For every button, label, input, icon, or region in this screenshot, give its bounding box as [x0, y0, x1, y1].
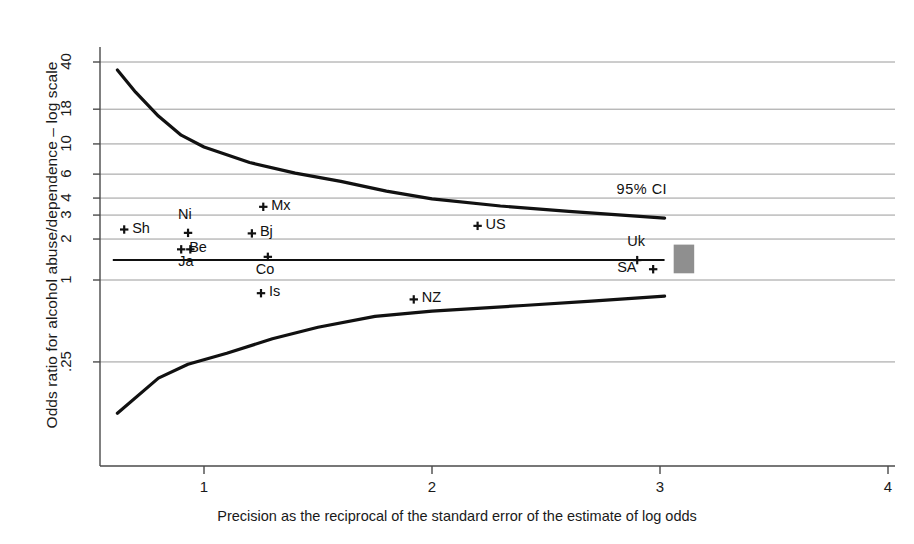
- data-point-is: [257, 289, 265, 297]
- data-point-us: [473, 222, 481, 230]
- x-axis-title: Precision as the reciprocal of the stand…: [0, 508, 914, 524]
- point-label-us: US: [486, 216, 506, 232]
- data-point-ni: [184, 229, 192, 237]
- point-label-co: Co: [256, 261, 275, 277]
- y-tick-label: .25: [57, 338, 74, 384]
- data-point-sa: [649, 265, 657, 273]
- annotation-ci-label: 95% CI: [617, 181, 668, 197]
- gridlines-group: [100, 62, 895, 362]
- x-tick-label: 1: [184, 478, 224, 495]
- x-tick-label: 3: [640, 478, 680, 495]
- y-tick-label: 1: [57, 257, 74, 303]
- data-point-sh: [120, 225, 128, 233]
- point-label-nz: NZ: [422, 289, 441, 305]
- data-point-nz: [410, 295, 418, 303]
- point-label-sh: Sh: [132, 220, 150, 236]
- funnel-plot-figure: Odds ratio for alcohol abuse/dependence …: [0, 0, 914, 544]
- chart-canvas: [0, 0, 914, 544]
- data-point-be: [177, 245, 185, 253]
- shaded-box-group: [674, 245, 695, 274]
- ci-lower-curve: [117, 296, 664, 413]
- y-tick-label: 18: [57, 86, 74, 132]
- point-label-uk: Uk: [627, 233, 645, 249]
- y-tick-label: 40: [57, 39, 74, 85]
- pooled-estimate-box: [674, 245, 695, 274]
- x-tick-label: 4: [868, 478, 908, 495]
- data-point-mx: [259, 203, 267, 211]
- x-tick-label: 2: [412, 478, 452, 495]
- point-label-is: Is: [269, 283, 280, 299]
- point-label-sa: SA: [617, 259, 636, 275]
- data-point-bj: [248, 229, 256, 237]
- point-label-mx: Mx: [271, 197, 290, 213]
- point-label-ni: Ni: [178, 206, 192, 222]
- point-label-ja: Ja: [178, 253, 193, 269]
- point-label-bj: Bj: [260, 223, 273, 239]
